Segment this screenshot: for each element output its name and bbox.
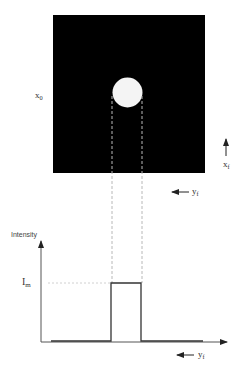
label-im: Im [22,277,31,289]
label-yf-top-sub: f [197,190,199,197]
label-x0: x0 [35,91,43,101]
bright-spot [113,78,143,108]
label-intensity: Intensity [11,231,37,238]
intensity-plot [41,241,227,342]
label-xf-sub: f [228,163,230,170]
label-x0-sub: 0 [40,94,43,101]
label-yf-top: yf [192,187,199,197]
label-yf-bottom: yf [198,350,205,360]
label-xf: xf [223,160,230,170]
intensity-pulse [51,283,203,341]
diagram-figure: x0 xf yf Intensity Im yf [0,0,246,376]
label-yf-bottom-sub: f [203,353,205,360]
object-plane [53,15,205,173]
label-im-sub: m [25,281,30,289]
